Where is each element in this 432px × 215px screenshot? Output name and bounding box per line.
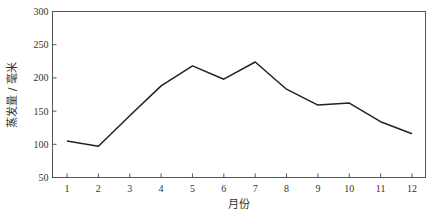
x-tick-label: 4: [159, 183, 164, 194]
plot-frame: [53, 12, 426, 178]
x-tick-label: 10: [344, 183, 354, 194]
y-tick-label: 200: [34, 72, 49, 83]
x-tick-label: 3: [127, 183, 132, 194]
x-axis-title: 月份: [228, 198, 250, 211]
y-axis: 50100150200250300: [34, 6, 57, 183]
x-tick-label: 8: [284, 183, 289, 194]
x-tick-label: 2: [96, 183, 101, 194]
y-tick-label: 300: [34, 6, 49, 17]
x-tick-label: 12: [407, 183, 417, 194]
x-tick-label: 6: [221, 183, 226, 194]
x-tick-label: 1: [65, 183, 70, 194]
x-tick-label: 11: [376, 183, 386, 194]
x-tick-label: 5: [190, 183, 195, 194]
y-tick-label: 100: [34, 139, 49, 150]
data-line: [67, 62, 412, 146]
line-chart: 50100150200250300 123456789101112 月份 蒸发量…: [0, 0, 432, 215]
y-tick-label: 50: [39, 172, 49, 183]
x-axis: 123456789101112: [65, 174, 418, 194]
y-axis-title: 蒸发量 / 毫米: [5, 62, 19, 128]
x-tick-label: 9: [315, 183, 320, 194]
x-tick-label: 7: [253, 183, 258, 194]
y-tick-label: 250: [34, 39, 49, 50]
y-tick-label: 150: [34, 106, 49, 117]
